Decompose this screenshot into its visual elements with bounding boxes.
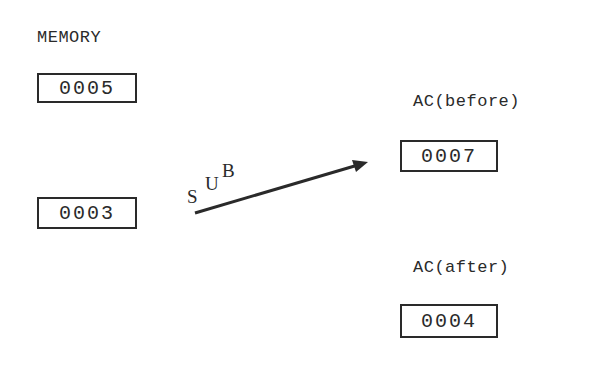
ac-before-value: 0007 [421,145,477,168]
ac-after-value: 0004 [421,310,477,333]
ac-before-register: 0007 [400,140,498,172]
ac-before-label: AC(before) [413,92,520,111]
ac-after-label: AC(after) [413,258,509,277]
operation-letter-b: B [222,160,235,182]
ac-after-register: 0004 [400,304,498,338]
sub-arrow-icon [0,0,594,369]
operation-letter-u: U [205,173,219,195]
operation-letter-s: S [187,186,198,208]
